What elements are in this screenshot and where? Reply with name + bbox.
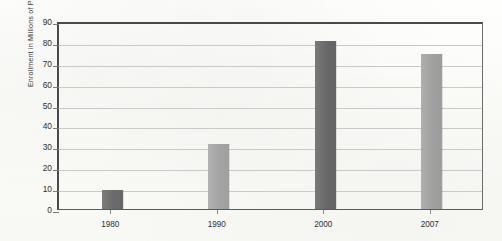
y-axis-tick-mark bbox=[53, 24, 59, 25]
gridline bbox=[59, 149, 482, 150]
y-axis-tick-mark bbox=[53, 128, 59, 129]
bar bbox=[208, 144, 229, 209]
gridline bbox=[59, 170, 482, 171]
bar bbox=[315, 41, 336, 209]
gridline bbox=[59, 66, 482, 67]
bar-chart: Enrollment in Millions of Persons 010203… bbox=[0, 0, 502, 241]
x-axis-tick-mark bbox=[110, 210, 111, 214]
x-axis-tick-label: 2000 bbox=[314, 220, 332, 229]
y-axis-tick-mark bbox=[53, 170, 59, 171]
x-axis-tick-label: 1990 bbox=[208, 220, 226, 229]
y-axis-tick-mark bbox=[53, 45, 59, 46]
plot-area bbox=[57, 22, 483, 210]
y-axis-tick-label: 10 bbox=[30, 184, 52, 194]
x-axis-tick-label: 1980 bbox=[101, 220, 119, 229]
x-axis-tick-mark bbox=[323, 210, 324, 214]
y-axis-tick-mark bbox=[53, 149, 59, 150]
gridline bbox=[59, 128, 482, 129]
y-axis-tick-mark bbox=[53, 87, 59, 88]
y-axis-tick-mark bbox=[53, 108, 59, 109]
y-axis-tick-labels: 0102030405060708090 bbox=[28, 0, 52, 241]
x-axis-tick-label: 2007 bbox=[421, 220, 439, 229]
gridline bbox=[59, 108, 482, 109]
y-axis-tick-mark bbox=[53, 66, 59, 67]
y-axis-tick-label: 60 bbox=[30, 80, 52, 90]
y-axis-tick-label: 0 bbox=[30, 205, 52, 215]
bar bbox=[421, 54, 442, 209]
x-axis-tick-labels: 1980199020002007 bbox=[57, 210, 483, 241]
y-axis-tick-label: 30 bbox=[30, 142, 52, 152]
gridline bbox=[59, 45, 482, 46]
y-axis-tick-label: 80 bbox=[30, 38, 52, 48]
bar bbox=[102, 190, 123, 209]
gridline bbox=[59, 87, 482, 88]
x-axis-tick-mark bbox=[430, 210, 431, 214]
y-axis-tick-label: 70 bbox=[30, 59, 52, 69]
y-axis-tick-label: 20 bbox=[30, 163, 52, 173]
y-axis-tick-label: 90 bbox=[30, 17, 52, 27]
y-axis-tick-label: 50 bbox=[30, 101, 52, 111]
y-axis-tick-label: 40 bbox=[30, 121, 52, 131]
y-axis-tick-mark bbox=[53, 191, 59, 192]
x-axis-tick-mark bbox=[217, 210, 218, 214]
